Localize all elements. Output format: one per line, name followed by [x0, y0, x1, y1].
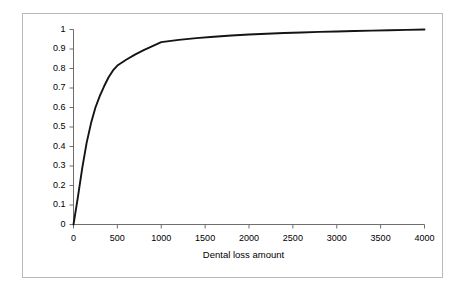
y-axis-tick-label: 0.1: [20, 200, 66, 209]
x-axis-title: Dental loss amount: [0, 250, 465, 260]
y-axis-ticks: [70, 30, 74, 225]
y-axis-tick-label: 0.2: [20, 181, 66, 190]
x-axis-tick-label: 1500: [180, 234, 230, 243]
x-axis-tick-label: 2000: [224, 234, 274, 243]
y-axis-tick-label: 0.3: [20, 161, 66, 170]
data-line-series-0: [74, 30, 425, 225]
y-axis-tick-label: 0.7: [20, 83, 66, 92]
chart-figure: 00.10.20.30.40.50.60.70.80.91 0500100015…: [0, 0, 465, 291]
x-axis-tick-label: 4000: [400, 234, 450, 243]
data-series-group: [74, 30, 425, 225]
x-axis-tick-label: 2500: [268, 234, 318, 243]
x-axis-tick-label: 500: [92, 234, 142, 243]
y-axis-tick-label: 0.4: [20, 142, 66, 151]
y-axis-tick-label: 0.8: [20, 64, 66, 73]
y-axis-tick-label: 0.9: [20, 44, 66, 53]
y-axis-tick-label: 0.6: [20, 103, 66, 112]
y-axis-tick-label: 0.5: [20, 122, 66, 131]
x-axis-ticks: [74, 225, 425, 229]
x-axis-title-text: Dental loss amount: [203, 250, 284, 260]
y-axis-tick-label: 0: [20, 220, 66, 229]
x-axis-tick-label: 0: [49, 234, 99, 243]
y-axis-tick-label: 1: [20, 25, 66, 34]
x-axis-tick-label: 3000: [312, 234, 362, 243]
x-axis-tick-label: 3500: [356, 234, 406, 243]
x-axis-tick-label: 1000: [136, 234, 186, 243]
plot-area: [0, 0, 465, 291]
